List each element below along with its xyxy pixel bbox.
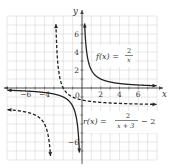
y-axis-label: y [72, 6, 78, 16]
arrowhead-icon [7, 88, 11, 92]
f-label-lhs: f(x) = [95, 52, 119, 61]
arrowhead-icon [83, 24, 87, 28]
r-label-numerator: 2 [126, 112, 130, 120]
x-tick-label: 6 [136, 90, 141, 99]
y-tick-label: 2 [74, 66, 79, 75]
arrowhead-icon [153, 102, 157, 106]
f-label-denominator: x [127, 56, 131, 64]
f-label: f(x) = 2 x [95, 45, 135, 67]
arrowhead-icon [48, 152, 52, 156]
x-axis-label: x [162, 89, 167, 99]
x-tick-label: −4 [39, 90, 50, 99]
x-tick-label: 2 [98, 90, 103, 99]
r-label: r(x) = 2 x + 3 − 2 [83, 111, 159, 133]
r-label-tail: − 2 [141, 117, 155, 126]
arrowhead-icon [7, 108, 11, 112]
y-tick-label: 6 [74, 30, 79, 39]
graph: −6−4246642−6 x y 0 f(x) = 2 x r(x) = 2 x… [0, 0, 170, 168]
y-tick-label: 4 [74, 48, 79, 57]
f-label-numerator: 2 [127, 47, 131, 55]
origin-label: 0 [75, 91, 80, 100]
arrowhead-icon [152, 84, 156, 88]
r-label-denominator: x + 3 [117, 122, 134, 130]
y-tick-label: −6 [68, 138, 79, 147]
x-tick-label: 4 [117, 90, 122, 99]
axes [4, 10, 163, 164]
r-label-lhs: r(x) = [83, 117, 107, 126]
arrowhead-icon [77, 148, 81, 152]
